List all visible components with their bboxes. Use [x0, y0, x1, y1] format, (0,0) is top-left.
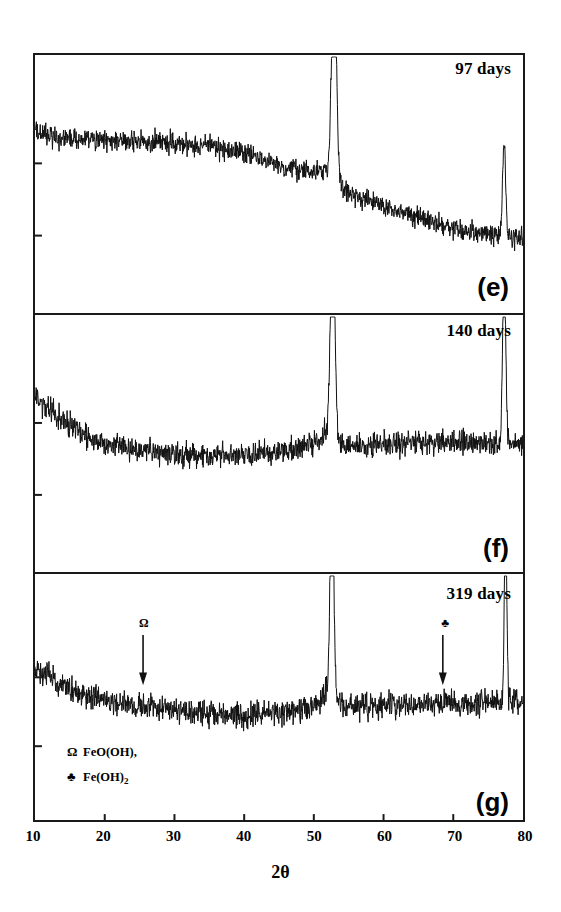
x-axis-title: 2θ	[0, 862, 561, 883]
x-tick-label-30: 30	[166, 828, 181, 845]
omega-icon: Ω	[67, 740, 83, 765]
x-tick-label-10: 10	[26, 828, 41, 845]
x-axis-tick-labels: 1020304050607080	[0, 828, 561, 854]
panel-e-days-label: 97 days	[455, 59, 511, 79]
panel-g: 319 days Ω ♣ ΩFeO(OH), ♣Fe(OH)2 (g)	[33, 572, 525, 822]
diffractogram-plot-f	[35, 315, 523, 572]
legend-item-feooh: ΩFeO(OH),	[67, 740, 137, 765]
panel-g-letter: (g)	[476, 787, 509, 818]
x-tick-label-40: 40	[236, 828, 251, 845]
x-tick-label-20: 20	[96, 828, 111, 845]
annotation-arrow-0	[139, 635, 147, 685]
panel-f: 140 days (f)	[33, 313, 525, 572]
legend-item-feoh2: ♣Fe(OH)2	[67, 765, 137, 790]
x-tick-label-80: 80	[518, 828, 533, 845]
diffractogram-plot-e	[35, 55, 523, 313]
club-icon: ♣	[67, 765, 83, 790]
legend: ΩFeO(OH), ♣Fe(OH)2	[67, 740, 137, 790]
annotation-arrow-1	[439, 635, 447, 685]
panel-e: 97 days (e)	[33, 53, 525, 313]
marker-club-symbol: ♣	[441, 616, 449, 631]
x-tick-label-60: 60	[377, 828, 392, 845]
legend-label-feoh2-subscript: 2	[124, 776, 129, 786]
xrd-figure: 97 days (e) 140 days (f) 319 days Ω ♣ ΩF…	[0, 0, 561, 912]
marker-omega-symbol: Ω	[139, 616, 149, 631]
panel-g-days-label: 319 days	[447, 584, 511, 604]
x-tick-label-70: 70	[447, 828, 462, 845]
legend-label-feoh2: Fe(OH)	[83, 770, 124, 784]
panel-f-letter: (f)	[483, 533, 509, 564]
x-tick-label-50: 50	[307, 828, 322, 845]
legend-label-feooh: FeO(OH),	[83, 745, 137, 759]
panel-e-letter: (e)	[477, 272, 509, 303]
panel-f-days-label: 140 days	[447, 321, 511, 341]
